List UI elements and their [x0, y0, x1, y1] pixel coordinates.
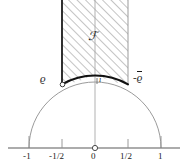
rho-marker: [60, 82, 65, 87]
imaginary-unit-label: i: [99, 76, 101, 84]
domain-symbol-label: ℱ: [88, 30, 97, 42]
axis-label-plus-half: 1/2: [120, 152, 132, 161]
axis-label-zero: 0: [91, 152, 96, 161]
modular-fundamental-domain-figure: ℱ ϱ -ϱ i -1 -1/2 0 1/2 1: [0, 0, 187, 166]
origin-marker: [92, 145, 97, 150]
figure-canvas: [0, 0, 187, 166]
axis-label-plus-one: 1: [158, 152, 163, 161]
axis-label-minus-one: -1: [23, 152, 31, 161]
rho-label: ϱ: [40, 73, 46, 84]
minus-rho-bar-label: -ϱ: [133, 72, 142, 83]
rho-bar: ϱ: [137, 72, 143, 83]
axis-label-minus-half: -1/2: [49, 152, 64, 161]
